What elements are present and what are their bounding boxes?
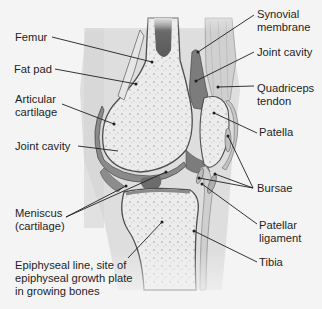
label-tibia: Tibia [259, 256, 283, 269]
label-epiphyseal-line2: epiphyseal growth plate [15, 272, 133, 285]
label-femur: Femur [15, 31, 47, 44]
label-synovial-line1: Synovial [257, 8, 299, 21]
label-joint-cavity-left: Joint cavity [15, 140, 70, 153]
label-joint-cavity-right: Joint cavity [257, 46, 312, 59]
label-epiphyseal-line3: in growing bones [15, 285, 100, 298]
label-epiphyseal-line1: Epiphyseal line, site of [15, 259, 126, 272]
label-meniscus-line2: (cartilage) [15, 220, 65, 233]
label-quadriceps-line1: Quadriceps [257, 82, 314, 95]
label-fat-pad: Fat pad [14, 63, 52, 76]
label-patellar-ligament-line2: ligament [259, 232, 301, 245]
label-quadriceps-line2: tendon [257, 95, 291, 108]
label-bursae: Bursae [257, 182, 292, 195]
label-meniscus-line1: Meniscus [15, 207, 62, 220]
label-articular-cartilage-line1: Articular [15, 93, 56, 106]
label-articular-cartilage-line2: cartilage [15, 106, 57, 119]
label-patella: Patella [259, 126, 293, 139]
label-patellar-ligament-line1: Patellar [259, 219, 297, 232]
label-synovial-line2: membrane [257, 21, 310, 34]
